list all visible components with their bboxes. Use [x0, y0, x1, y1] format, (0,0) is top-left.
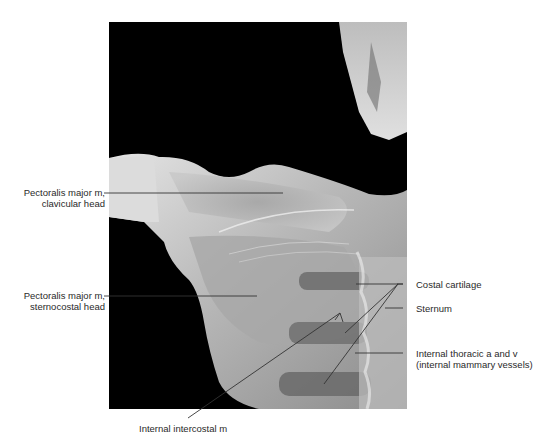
label-text: Sternum: [416, 303, 452, 314]
label-internal-thoracic: Internal thoracic a and v (internal mamm…: [416, 348, 533, 370]
label-costal-cartilage: Costal cartilage: [416, 279, 481, 290]
label-text: Internal intercostal m: [139, 423, 227, 434]
label-text: Pectoralis major m,: [24, 290, 105, 301]
label-internal-intercostal: Internal intercostal m: [139, 423, 227, 434]
label-text: Pectoralis major m,: [24, 187, 105, 198]
label-text: (internal mammary vessels): [416, 359, 533, 370]
anatomy-image: [109, 22, 407, 409]
anatomy-illustration: [109, 22, 407, 409]
label-sternum: Sternum: [416, 303, 452, 314]
label-text: sternocostal head: [24, 301, 105, 312]
label-text: Costal cartilage: [416, 279, 481, 290]
label-pectoralis-clavicular: Pectoralis major m, clavicular head: [24, 187, 105, 209]
label-pectoralis-sternocostal: Pectoralis major m, sternocostal head: [24, 290, 105, 312]
label-text: clavicular head: [24, 198, 105, 209]
label-text: Internal thoracic a and v: [416, 348, 533, 359]
